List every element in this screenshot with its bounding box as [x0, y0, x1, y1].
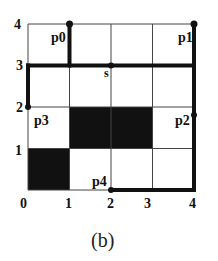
y-tick-3: 3	[16, 58, 23, 73]
filled-cell-1-1	[70, 107, 112, 149]
point-p1-dot	[191, 21, 198, 28]
filled-cell-2-1	[111, 107, 153, 149]
label-p2: p2	[175, 113, 190, 128]
y-tick-4: 4	[14, 17, 21, 32]
y-axis-ticks: 4 3 2 1	[14, 17, 23, 158]
label-s: s	[104, 66, 109, 80]
figure-caption: (b)	[91, 229, 114, 252]
point-p0-dot	[66, 21, 73, 28]
point-p4-dot	[108, 187, 114, 193]
point-p3-dot	[25, 104, 31, 110]
label-p1: p1	[178, 30, 193, 45]
x-tick-3: 3	[144, 196, 151, 211]
filled-cell-0-0	[28, 149, 70, 191]
label-p4: p4	[92, 174, 107, 189]
x-axis-ticks: 0 1 2 3 4	[20, 196, 196, 211]
point-s-dot	[108, 63, 114, 69]
x-tick-4: 4	[189, 196, 196, 211]
point-p2-dot	[191, 112, 197, 118]
grid-diagram: p0 p1 p2 p3 p4 s 4 3 2 1 0 1 2 3 4 (b)	[0, 0, 218, 261]
y-tick-2: 2	[16, 100, 23, 115]
label-p0: p0	[51, 30, 66, 45]
label-p3: p3	[34, 113, 49, 128]
x-tick-1: 1	[65, 196, 72, 211]
x-tick-2: 2	[107, 196, 114, 211]
x-tick-0: 0	[20, 196, 27, 211]
y-tick-1: 1	[15, 143, 22, 158]
